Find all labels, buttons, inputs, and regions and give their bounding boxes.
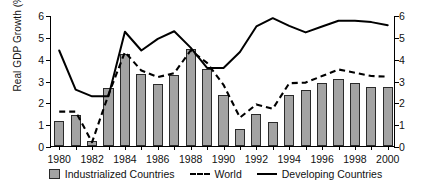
x-tick-1995 bbox=[306, 146, 307, 150]
x-tick-1981 bbox=[76, 146, 77, 150]
x-tick-1984 bbox=[125, 146, 126, 150]
plot-area: 0123456 0123456 198019821984198619881990… bbox=[50, 16, 395, 147]
solid-line-swatch-icon bbox=[257, 173, 277, 175]
x-tick-1982 bbox=[92, 146, 93, 150]
y-axis-title: Real GDP Growth (%) bbox=[12, 0, 23, 107]
y-tick-label-5: 5 bbox=[22, 33, 44, 44]
y-tick-right-label-1: 1 bbox=[399, 120, 421, 131]
y-tick-label-1: 1 bbox=[22, 120, 44, 131]
y-tick-0 bbox=[46, 147, 51, 148]
x-tick-1986 bbox=[158, 146, 159, 150]
y-tick-1 bbox=[46, 125, 51, 126]
x-tick-1980 bbox=[59, 146, 60, 150]
x-tick-1991 bbox=[240, 146, 241, 150]
y-tick-2 bbox=[46, 103, 51, 104]
y-tick-right-label-0: 0 bbox=[399, 142, 421, 153]
chart-legend: Industrialized Countries World Developin… bbox=[0, 168, 431, 180]
x-tick-1992 bbox=[256, 146, 257, 150]
legend-label-world: World bbox=[215, 168, 242, 180]
x-tick-1999 bbox=[371, 146, 372, 150]
y-tick-right-label-3: 3 bbox=[399, 77, 421, 88]
legend-item-developing: Developing Countries bbox=[257, 168, 382, 180]
y-tick-right-label-4: 4 bbox=[399, 55, 421, 66]
x-tick-1993 bbox=[273, 146, 274, 150]
x-tick-1996 bbox=[322, 146, 323, 150]
legend-item-world: World bbox=[190, 168, 242, 180]
y-tick-3 bbox=[46, 82, 51, 83]
y-tick-right-label-6: 6 bbox=[399, 11, 421, 22]
x-tick-1994 bbox=[289, 146, 290, 150]
y-tick-label-3: 3 bbox=[22, 77, 44, 88]
x-tick-label-2000: 2000 bbox=[368, 154, 408, 165]
x-tick-1998 bbox=[355, 146, 356, 150]
line-series-overlay bbox=[51, 16, 396, 147]
y-tick-label-0: 0 bbox=[22, 142, 44, 153]
x-tick-1997 bbox=[339, 146, 340, 150]
bar-swatch-icon bbox=[49, 169, 60, 179]
x-tick-1985 bbox=[141, 146, 142, 150]
x-tick-2000 bbox=[388, 146, 389, 150]
legend-label-industrialized: Industrialized Countries bbox=[65, 168, 175, 180]
x-tick-1988 bbox=[191, 146, 192, 150]
y-tick-4 bbox=[46, 60, 51, 61]
legend-item-industrialized: Industrialized Countries bbox=[49, 168, 175, 180]
y-tick-right-label-2: 2 bbox=[399, 98, 421, 109]
y-tick-5 bbox=[46, 38, 51, 39]
gdp-growth-chart: Real GDP Growth (%) 0123456 0123456 1980… bbox=[0, 0, 431, 192]
legend-label-developing: Developing Countries bbox=[282, 168, 382, 180]
x-tick-1987 bbox=[174, 146, 175, 150]
y-tick-6 bbox=[46, 16, 51, 17]
dashed-line-swatch-icon bbox=[190, 173, 210, 175]
y-tick-right-label-5: 5 bbox=[399, 33, 421, 44]
y-tick-label-6: 6 bbox=[22, 11, 44, 22]
x-tick-1983 bbox=[109, 146, 110, 150]
y-tick-label-4: 4 bbox=[22, 55, 44, 66]
y-tick-label-2: 2 bbox=[22, 98, 44, 109]
x-tick-1990 bbox=[224, 146, 225, 150]
x-tick-1989 bbox=[207, 146, 208, 150]
